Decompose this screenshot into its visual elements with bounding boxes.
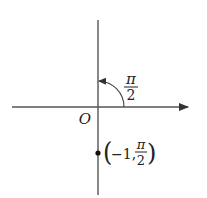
angle-label-numerator: π	[125, 70, 137, 88]
point-label-r: −1,	[111, 146, 136, 162]
point-label-close-paren: )	[147, 139, 156, 167]
point-label-theta-numerator: π	[136, 137, 146, 152]
angle-arc	[99, 81, 124, 107]
angle-label-denominator: 2	[127, 87, 136, 103]
origin-label: O	[79, 110, 91, 128]
point-label-theta-denominator: 2	[137, 153, 145, 168]
point-marker	[95, 150, 100, 155]
polar-diagram: π 2 O ( −1, π 2 )	[0, 0, 207, 198]
